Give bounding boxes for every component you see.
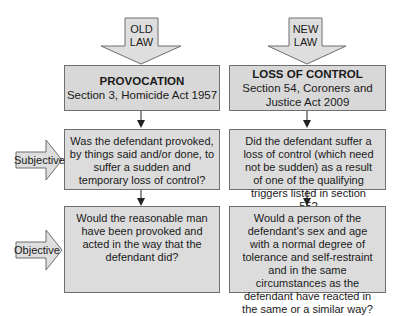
old-label-line2: LAW (125, 36, 158, 49)
old-law-label: OLD LAW (125, 23, 158, 49)
loss-of-control-box: LOSS OF CONTROL Section 54, Coroners and… (229, 65, 386, 111)
provocation-title: PROVOCATION (100, 74, 185, 88)
old-label-line1: OLD (125, 23, 158, 36)
old-objective-box: Would the reasonable man have been provo… (64, 206, 220, 293)
new-law-connector-1 (303, 110, 311, 128)
new-label-line2: LAW (289, 36, 322, 49)
new-objective-text: Would a person of the defendant's sex an… (230, 207, 385, 316)
loss-of-control-title: LOSS OF CONTROL (252, 67, 363, 81)
provocation-subtitle: Section 3, Homicide Act 1957 (67, 88, 217, 102)
new-law-label: NEW LAW (289, 23, 322, 49)
new-subjective-text: Did the defendant suffer a loss of contr… (230, 130, 385, 213)
subjective-label: Subjective (14, 154, 60, 167)
objective-label: Objective (14, 244, 60, 257)
old-law-connector-2 (137, 189, 145, 206)
old-law-connector-1 (137, 110, 145, 128)
new-subjective-box: Did the defendant suffer a loss of contr… (229, 129, 386, 190)
provocation-box: PROVOCATION Section 3, Homicide Act 1957 (64, 65, 220, 111)
new-objective-box: Would a person of the defendant's sex an… (229, 206, 386, 293)
loss-of-control-subtitle: Section 54, Coroners and Justice Act 200… (230, 81, 385, 109)
old-subjective-text: Was the defendant provoked, by things sa… (65, 130, 219, 187)
old-objective-text: Would the reasonable man have been provo… (65, 207, 219, 264)
new-label-line1: NEW (289, 23, 322, 36)
old-subjective-box: Was the defendant provoked, by things sa… (64, 129, 220, 190)
